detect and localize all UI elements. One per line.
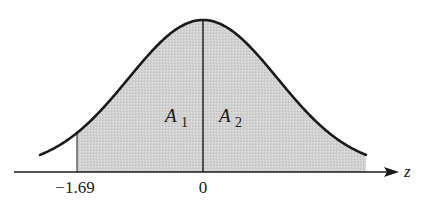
region-label-a1-sub: 1 (181, 115, 188, 130)
shaded-area (77, 20, 366, 172)
tick-label-neg169: −1.69 (55, 178, 94, 197)
region-label-a2-main: A (217, 105, 231, 126)
tick-label-zero: 0 (199, 178, 208, 197)
region-label-a2-sub: 2 (235, 115, 242, 130)
axis-label-z: z (403, 162, 411, 181)
normal-distribution-chart: −1.69 0 z A 1 A 2 (0, 0, 438, 207)
region-label-a1-main: A (163, 105, 177, 126)
